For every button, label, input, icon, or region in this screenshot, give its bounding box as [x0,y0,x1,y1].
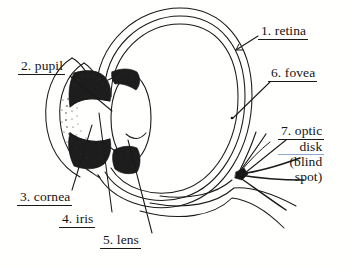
label-optic-disk-line3: (blind [278,155,324,170]
label-cornea-text: 3. cornea [17,190,72,205]
label-pupil-rule [18,74,65,75]
label-cornea-rule [17,205,72,206]
nerve-sheath-upper [160,180,232,197]
label-retina-rule [258,39,308,40]
label-iris-rule [59,227,95,228]
label-lens: 5. lens [100,233,141,249]
label-cornea: 3. cornea [17,190,72,206]
label-pupil-text: 2. pupil [18,59,65,74]
label-optic-disk-line2: disk [278,140,324,155]
label-iris: 4. iris [59,212,95,228]
label-retina-text: 1. retina [258,24,308,39]
iris-mass-upper [69,71,111,107]
label-optic-disk-line4: spot) [278,170,324,185]
label-fovea: 6. fovea [268,66,317,82]
label-optic-disk: 7. optic disk (blind spot) [278,124,324,184]
ciliary-body-upper [112,69,140,90]
nerve-sheath-lower [140,198,284,228]
label-iris-text: 4. iris [59,212,95,227]
label-pupil: 2. pupil [18,59,65,75]
lens-inner-curve [126,133,146,138]
label-fovea-text: 6. fovea [268,66,317,81]
label-lens-text: 5. lens [100,233,141,248]
label-fovea-rule [268,81,317,82]
anterior-chamber-boundary [88,170,100,178]
label-optic-disk-line1: 7. optic [278,124,324,139]
eye-diagram-figure: 1. retina 6. fovea 7. optic disk (blind … [0,0,349,267]
label-retina: 1. retina [258,24,308,40]
label-lens-rule [100,248,141,249]
